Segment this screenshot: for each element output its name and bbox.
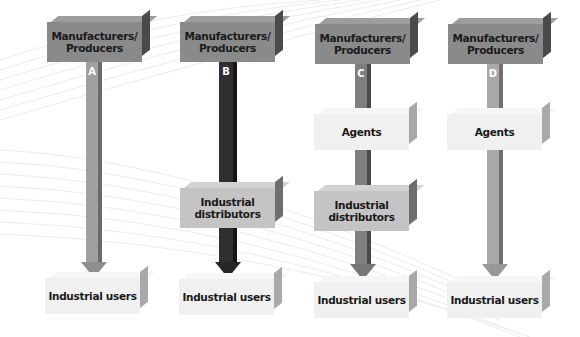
manufacturers-producers-box-c: Manufacturers/Producers — [315, 24, 410, 64]
industrial-users-box-d: Industrial users — [447, 282, 542, 318]
industrial-distributors-box-b: Industrialdistributors — [180, 188, 275, 228]
manufacturers-producers-box-d: Manufacturers/Producers — [448, 24, 543, 64]
agents-box-d: Agents — [447, 114, 542, 150]
industrial-users-box-b: Industrial users — [179, 279, 274, 315]
industrial-users-box-c: Industrial users — [314, 282, 409, 318]
manufacturers-producers-box-a: Manufacturers/Producers — [47, 22, 142, 62]
channel-label-a: A — [86, 66, 98, 77]
channel-label-b: B — [219, 66, 233, 77]
agents-box-c: Agents — [314, 114, 409, 150]
arrow-edge — [499, 62, 503, 266]
channel-b-arrow-shaft: B — [219, 60, 237, 262]
channel-d-arrow-shaft: D — [487, 62, 503, 266]
industrial-users-box-a: Industrial users — [45, 278, 140, 314]
arrow-edge — [98, 60, 102, 262]
channel-c-arrow-shaft: C — [355, 62, 371, 266]
channel-a-arrow-shaft: A — [86, 60, 102, 262]
industrial-distributors-box-c: Industrialdistributors — [314, 191, 409, 231]
channel-label-d: D — [487, 68, 499, 79]
arrow-edge — [233, 60, 237, 262]
arrow-edge — [367, 62, 371, 266]
channel-label-c: C — [355, 68, 367, 79]
manufacturers-producers-box-b: Manufacturers/Producers — [180, 22, 275, 62]
